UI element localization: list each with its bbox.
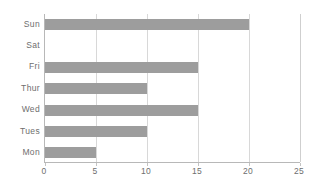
bars-layer: [45, 14, 300, 162]
gridline-25: [300, 14, 301, 162]
plot-area: [44, 14, 300, 163]
bar-row[interactable]: [45, 56, 300, 78]
bar-row[interactable]: [45, 35, 300, 56]
bar-wed[interactable]: [45, 105, 198, 116]
value-label-20: 20: [243, 166, 253, 177]
category-label-mon: Mon: [0, 147, 40, 157]
bar-row[interactable]: [45, 78, 300, 99]
bar-chart: Sun Sat Fri Thur Wed Tues Mon 0 5 10 15 …: [0, 0, 319, 193]
category-axis: Sun Sat Fri Thur Wed Tues Mon: [0, 14, 40, 163]
category-label-wed: Wed: [0, 104, 40, 114]
value-axis: 0 5 10 15 20 25: [44, 166, 300, 180]
value-label-15: 15: [192, 166, 202, 177]
bar-row[interactable]: [45, 142, 300, 163]
bar-sun[interactable]: [45, 19, 249, 30]
category-label-tues: Tues: [0, 126, 40, 136]
bar-tues[interactable]: [45, 126, 147, 137]
category-label-thur: Thur: [0, 83, 40, 93]
value-label-10: 10: [141, 166, 151, 177]
value-label-0: 0: [41, 166, 46, 177]
bar-row[interactable]: [45, 121, 300, 142]
bar-fri[interactable]: [45, 62, 198, 73]
bar-thur[interactable]: [45, 83, 147, 94]
category-label-fri: Fri: [0, 61, 40, 71]
bar-row[interactable]: [45, 14, 300, 35]
value-label-25: 25: [294, 166, 304, 177]
bar-mon[interactable]: [45, 147, 96, 158]
bar-row[interactable]: [45, 99, 300, 121]
value-label-5: 5: [92, 166, 97, 177]
category-label-sat: Sat: [0, 40, 40, 50]
category-label-sun: Sun: [0, 19, 40, 29]
